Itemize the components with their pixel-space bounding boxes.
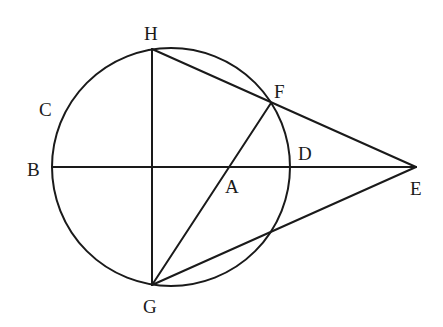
label-A: A [225, 176, 239, 197]
label-H: H [144, 23, 158, 44]
label-D: D [298, 143, 312, 164]
geometry-diagram: H C B F D A E G [0, 0, 443, 327]
label-C: C [39, 99, 52, 120]
label-B: B [27, 159, 40, 180]
label-E: E [410, 178, 422, 199]
label-F: F [274, 81, 285, 102]
segment-HE [152, 49, 416, 167]
label-G: G [143, 296, 157, 317]
